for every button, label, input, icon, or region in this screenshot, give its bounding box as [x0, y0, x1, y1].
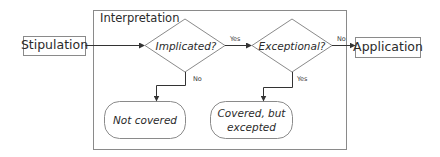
edge-label-exceptional-no: No — [337, 36, 346, 43]
exceptional-label: Exceptional? — [259, 41, 326, 52]
edge-label-exceptional-yes: Yes — [297, 76, 308, 83]
interpretation-title: Interpretation — [100, 13, 179, 25]
implicated-label: Implicated? — [156, 41, 217, 52]
arrow-exceptional-yes — [264, 72, 293, 101]
edge-label-implicated-yes: Yes — [230, 36, 241, 43]
stipulation-label: Stipulation — [21, 39, 88, 52]
covered-excepted-line-1: Covered, but — [218, 106, 286, 120]
covered-excepted-line-2: excepted — [218, 120, 286, 134]
edge-label-implicated-no: No — [193, 76, 202, 83]
covered-excepted-label: Covered, but excepted — [218, 106, 286, 134]
flowchart-diagram: Interpretation Stipulation Application I… — [0, 0, 440, 157]
not-covered-label: Not covered — [113, 113, 177, 127]
application-label: Application — [353, 41, 423, 54]
arrow-implicated-no — [157, 72, 186, 101]
